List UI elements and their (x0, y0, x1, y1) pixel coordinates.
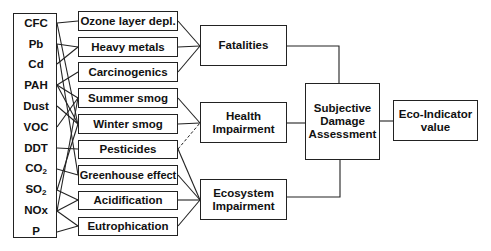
substances-box: CFC Pb Cd PAH Dust VOC DDT CO2 SO2 NOx P (13, 13, 57, 238)
assessment-label-1: Subjective (314, 102, 372, 115)
effect-heavy-metals: Heavy metals (78, 37, 178, 57)
substance-pah: PAH (14, 79, 58, 91)
effect-ozone-layer: Ozone layer depl. (78, 11, 178, 31)
damage-health-impairment: Health Impairment (200, 102, 287, 143)
assessment-label-2: Damage (320, 115, 365, 128)
eco-indicator-value: Eco-Indicator value (393, 100, 478, 141)
assessment-label-3: Assessment (309, 128, 377, 141)
substance-voc: VOC (14, 121, 58, 133)
subjective-damage-assessment: Subjective Damage Assessment (305, 83, 380, 160)
result-label-2: value (421, 121, 450, 134)
substance-nox: NOx (14, 204, 58, 216)
effect-summer-smog: Summer smog (78, 88, 178, 108)
substance-co2: CO2 (14, 162, 58, 176)
effect-greenhouse: Greenhouse effect (78, 165, 178, 185)
health-label-2: Impairment (213, 123, 275, 136)
effect-carcinogenics: Carcinogenics (78, 62, 178, 82)
damage-fatalities: Fatalities (200, 25, 287, 66)
health-label-1: Health (226, 110, 261, 123)
result-label-1: Eco-Indicator (399, 108, 472, 121)
effect-winter-smog: Winter smog (78, 114, 178, 134)
damage-ecosystem-impairment: Ecosystem Impairment (200, 179, 287, 220)
effect-pesticides: Pesticides (78, 140, 178, 159)
substance-so2: SO2 (14, 183, 58, 197)
substance-cfc: CFC (14, 17, 58, 29)
effect-acidification: Acidification (78, 191, 178, 210)
effect-eutrophication: Eutrophication (78, 217, 178, 236)
substance-p: P (14, 225, 58, 237)
substance-dust: Dust (14, 100, 58, 112)
substance-ddt: DDT (14, 142, 58, 154)
substance-pb: Pb (14, 38, 58, 50)
ecosystem-label-1: Ecosystem (213, 187, 274, 200)
substance-cd: Cd (14, 58, 58, 70)
ecosystem-label-2: Impairment (213, 200, 275, 213)
